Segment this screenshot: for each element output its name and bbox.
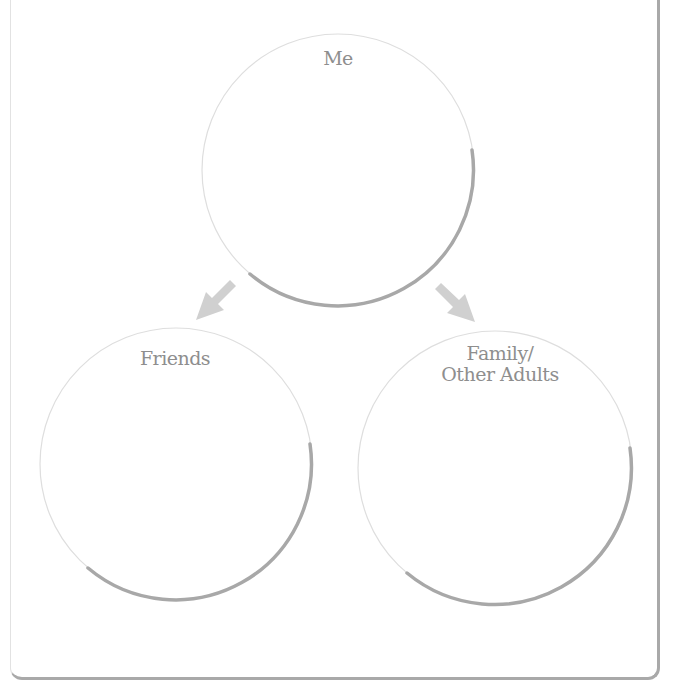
label-me: Me bbox=[298, 48, 378, 69]
arrow-down-left-icon bbox=[196, 280, 236, 320]
label-family-line1: Family/ bbox=[420, 343, 580, 364]
label-friends: Friends bbox=[115, 348, 235, 369]
arrow-down-right-icon bbox=[435, 283, 475, 322]
circle-me bbox=[202, 34, 474, 306]
label-family: Family/ Other Adults bbox=[420, 343, 580, 385]
label-family-line2: Other Adults bbox=[420, 364, 580, 385]
